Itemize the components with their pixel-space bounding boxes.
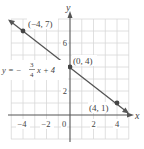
x-tick-2: 2 — [91, 119, 95, 129]
x-axis-label: x — [134, 110, 140, 121]
y-axis-label: y — [65, 2, 71, 13]
x-tick-m4: −4 — [17, 119, 27, 129]
x-tick-labels: −4 −2 0 2 4 — [16, 119, 120, 129]
point-4-1 — [115, 101, 120, 106]
x-tick-m2: −2 — [41, 119, 50, 129]
point-0-4 — [68, 65, 73, 70]
equation-label: y = − 3 4 x + 4 — [1, 60, 68, 80]
line-graph: x y −4 −2 0 2 4 2 6 (−4, 7) (0, 4) (4, 1… — [0, 0, 144, 149]
eq-denominator: 4 — [30, 71, 34, 79]
point-m4-7 — [21, 29, 26, 34]
eq-prefix: y = − — [1, 65, 22, 75]
y-tick-6: 6 — [63, 38, 67, 48]
eq-suffix: x + 4 — [36, 65, 56, 75]
point-label-m4-7: (−4, 7) — [28, 19, 53, 29]
eq-numerator: 3 — [30, 61, 34, 69]
point-label-4-1: (4, 1) — [89, 103, 109, 113]
point-label-0-4: (0, 4) — [73, 56, 93, 66]
x-tick-0: 0 — [62, 119, 66, 129]
y-tick-2: 2 — [63, 86, 67, 96]
